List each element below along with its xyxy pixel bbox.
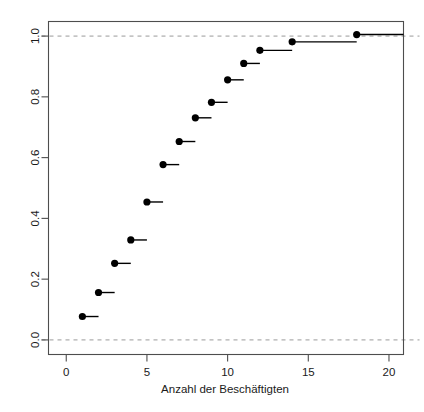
data-point bbox=[127, 236, 134, 243]
data-point bbox=[79, 313, 86, 320]
ecdf-chart: 05101520 0.00.20.40.60.81.0 Anzahl der B… bbox=[0, 0, 424, 412]
y-axis-ticks-group: 0.00.20.40.60.81.0 bbox=[29, 28, 49, 348]
chart-canvas: 05101520 0.00.20.40.60.81.0 Anzahl der B… bbox=[0, 0, 424, 412]
step-segments-group bbox=[82, 35, 403, 317]
x-tick-label: 10 bbox=[221, 366, 234, 378]
data-point bbox=[289, 38, 296, 45]
data-points-group bbox=[79, 31, 361, 320]
y-tick-label: 0.2 bbox=[29, 271, 41, 287]
plot-frame bbox=[49, 22, 404, 355]
data-point bbox=[256, 47, 263, 54]
x-axis-title: Anzahl der Beschäftigten bbox=[161, 383, 289, 395]
y-tick-label: 0.6 bbox=[29, 150, 41, 166]
data-point bbox=[240, 60, 247, 67]
data-point bbox=[224, 76, 231, 83]
data-point bbox=[353, 31, 360, 38]
data-point bbox=[143, 198, 150, 205]
x-tick-label: 5 bbox=[144, 366, 150, 378]
data-point bbox=[159, 161, 166, 168]
x-tick-label: 0 bbox=[63, 366, 69, 378]
x-axis-ticks-group: 05101520 bbox=[63, 355, 395, 378]
y-tick-label: 1.0 bbox=[29, 28, 41, 44]
x-tick-label: 15 bbox=[302, 366, 315, 378]
data-point bbox=[111, 260, 118, 267]
y-tick-label: 0.0 bbox=[29, 332, 41, 348]
x-tick-label: 20 bbox=[383, 366, 396, 378]
y-tick-label: 0.8 bbox=[29, 89, 41, 105]
data-point bbox=[208, 99, 215, 106]
y-tick-label: 0.4 bbox=[29, 210, 41, 227]
data-point bbox=[192, 114, 199, 121]
data-point bbox=[176, 138, 183, 145]
data-point bbox=[95, 289, 102, 296]
